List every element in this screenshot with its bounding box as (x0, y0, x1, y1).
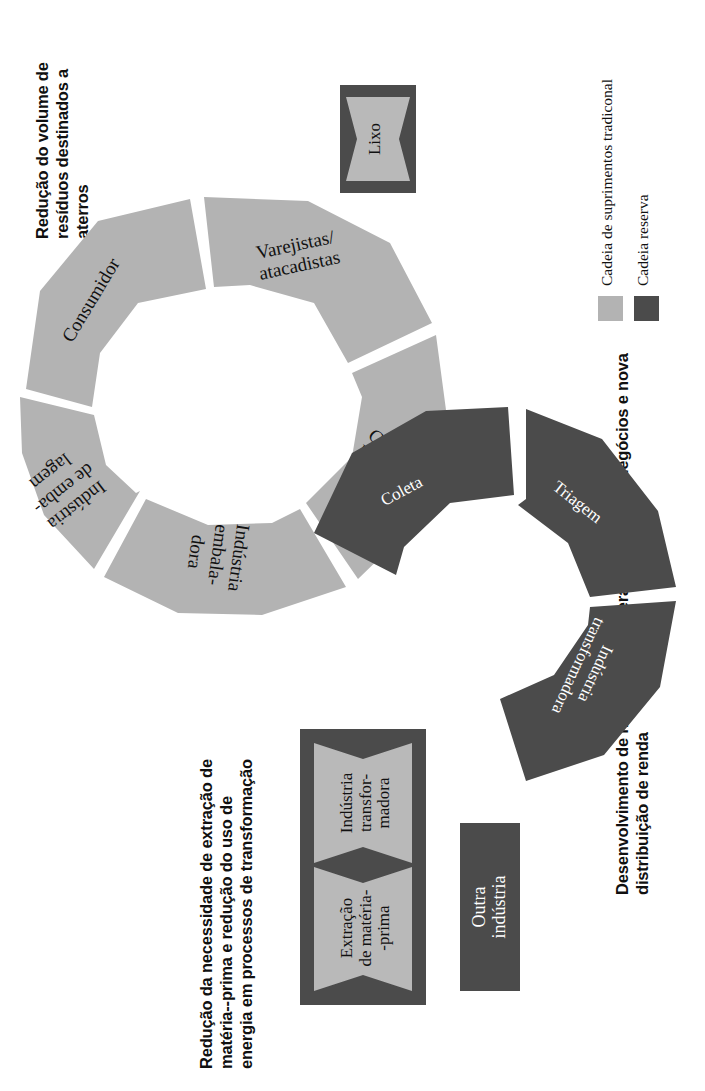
box-outra-industria: Outra indústria (460, 823, 520, 991)
box-label-industria-transformadora-box: Indústria transfor- madora (338, 745, 394, 861)
heading-raw-material: Redução da necessidade de extração de ma… (196, 739, 256, 1069)
segment-industria-transformadora-shape (500, 601, 676, 781)
legend-label-traditional: Cadeia de suprimentos tradiconal (598, 79, 616, 286)
diagram-canvas: Redução do volume de resíduos destinados… (0, 0, 705, 1091)
segment-consumidor-shape (26, 199, 206, 407)
segment-varejistas-shape (204, 197, 432, 363)
legend-swatch-dark (634, 296, 659, 321)
reverse-wheel-svg (300, 403, 680, 783)
legend-swatch-light (598, 296, 623, 321)
legend: Cadeia de suprimentos tradiconal Cadeia … (598, 11, 670, 321)
rotated-page-wrapper: Redução do volume de resíduos destinados… (0, 0, 705, 1091)
legend-label-reverse: Cadeia reserva (634, 194, 652, 286)
legend-item-reverse: Cadeia reserva (634, 11, 659, 321)
segment-triagem-shape (518, 409, 676, 597)
segment-coleta-shape (314, 407, 514, 575)
reverse-chain-wheel: Coleta Triagem Indústria transformadora (300, 403, 680, 783)
box-lixo: Lixo (340, 85, 416, 193)
box-label-outra-industria: Outra indústria (470, 823, 510, 991)
segment-industria-embalagem-shape (20, 397, 140, 569)
legend-item-traditional: Cadeia de suprimentos tradiconal (598, 11, 623, 321)
box-label-lixo: Lixo (366, 97, 385, 181)
box-raw-material-group: Extração de matéria- -prima Indústria tr… (300, 729, 426, 1005)
box-label-extracao: Extração de matéria- -prima (338, 869, 394, 987)
